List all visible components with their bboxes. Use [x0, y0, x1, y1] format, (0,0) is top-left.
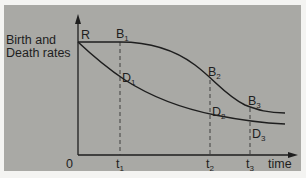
- death-rate-curve: [78, 42, 285, 124]
- d2-label: D2: [212, 105, 226, 121]
- t2-label: t2: [206, 157, 214, 173]
- y-axis-label-line1: Birth and: [6, 33, 56, 47]
- d3-label: D3: [252, 127, 266, 143]
- x-axis-label: time: [268, 157, 292, 171]
- y-axis-arrow-icon: [75, 14, 81, 24]
- start-point-label: R: [81, 28, 90, 42]
- b1-label: B1: [116, 27, 129, 43]
- t3-label: t3: [246, 157, 254, 173]
- origin-label: 0: [66, 157, 73, 171]
- d1-label: D1: [122, 71, 136, 87]
- b2-label: B2: [208, 65, 221, 81]
- birth-death-rate-diagram: Birth and Death rates R B1 B2 B3 D1 D2 D…: [0, 0, 306, 178]
- t1-label: t1: [116, 157, 124, 173]
- b3-label: B3: [248, 94, 261, 110]
- y-axis-label-line2: Death rates: [6, 46, 71, 60]
